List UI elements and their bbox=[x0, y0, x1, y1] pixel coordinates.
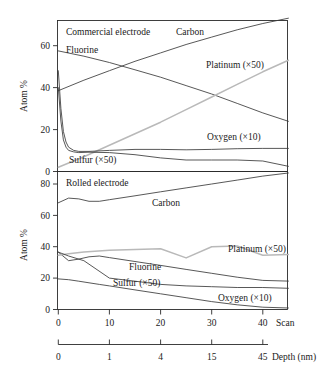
scan-tick-0: 0 bbox=[56, 318, 61, 328]
lower-ytick-0: 0 bbox=[45, 305, 50, 315]
upper-ytick-60: 60 bbox=[41, 41, 51, 51]
label-upper-fluorine: Fluorine bbox=[66, 45, 98, 55]
lower-y-ticks bbox=[53, 184, 58, 310]
depth-axis: 0 1 4 15 45 Depth (nm) bbox=[56, 340, 316, 364]
upper-ytick-20: 20 bbox=[41, 125, 51, 135]
upper-y-ticks bbox=[53, 46, 58, 172]
lower-ytick-40: 40 bbox=[41, 242, 51, 252]
label-upper-sulfur: Sulfur (×50) bbox=[69, 155, 116, 166]
scan-tick-10: 10 bbox=[105, 318, 115, 328]
lower-ytick-60: 60 bbox=[41, 211, 51, 221]
depth-tick-15: 15 bbox=[207, 352, 217, 362]
scan-axis: 0 10 20 30 40 Scan bbox=[56, 310, 295, 329]
upper-ytick-0: 0 bbox=[45, 167, 50, 177]
lower-panel: 80 60 40 20 0 Atom % Rolled electrode Ca… bbox=[19, 172, 288, 315]
depth-tick-0: 0 bbox=[56, 352, 61, 362]
label-lower-fluorine: Fluorine bbox=[129, 262, 161, 272]
upper-panel: 60 40 20 0 Atom % Commercial electrode C… bbox=[19, 18, 288, 177]
label-lower-carbon: Carbon bbox=[152, 198, 180, 208]
lower-y-axis-label: Atom % bbox=[19, 229, 29, 261]
label-upper-platinum: Platinum (×50) bbox=[206, 60, 264, 71]
label-lower-sulfur: Sulfur (×50) bbox=[113, 278, 160, 289]
figure-container: 60 40 20 0 Atom % Commercial electrode C… bbox=[0, 0, 335, 379]
lower-ytick-20: 20 bbox=[41, 273, 51, 283]
lower-panel-frame bbox=[58, 172, 288, 310]
upper-y-axis-label: Atom % bbox=[19, 80, 29, 112]
curve-lower-sulfur bbox=[58, 252, 288, 288]
depth-tick-1: 1 bbox=[107, 352, 112, 362]
lower-ytick-80: 80 bbox=[41, 179, 51, 189]
upper-panel-title: Commercial electrode bbox=[66, 27, 150, 37]
scan-tick-30: 30 bbox=[207, 318, 217, 328]
scan-tick-40: 40 bbox=[258, 318, 268, 328]
scan-axis-label: Scan bbox=[276, 318, 295, 328]
label-lower-oxygen: Oxygen (×10) bbox=[218, 293, 272, 304]
depth-axis-label: Depth (nm) bbox=[272, 352, 316, 363]
depth-profile-chart: 60 40 20 0 Atom % Commercial electrode C… bbox=[0, 0, 335, 379]
label-upper-oxygen: Oxygen (×10) bbox=[207, 132, 261, 143]
lower-panel-title: Rolled electrode bbox=[66, 178, 129, 188]
scan-tick-20: 20 bbox=[156, 318, 166, 328]
depth-tick-45: 45 bbox=[258, 352, 268, 362]
label-lower-platinum: Platinum (×50) bbox=[228, 244, 286, 255]
depth-tick-4: 4 bbox=[158, 352, 163, 362]
label-upper-carbon: Carbon bbox=[176, 27, 204, 37]
upper-ytick-40: 40 bbox=[41, 83, 51, 93]
